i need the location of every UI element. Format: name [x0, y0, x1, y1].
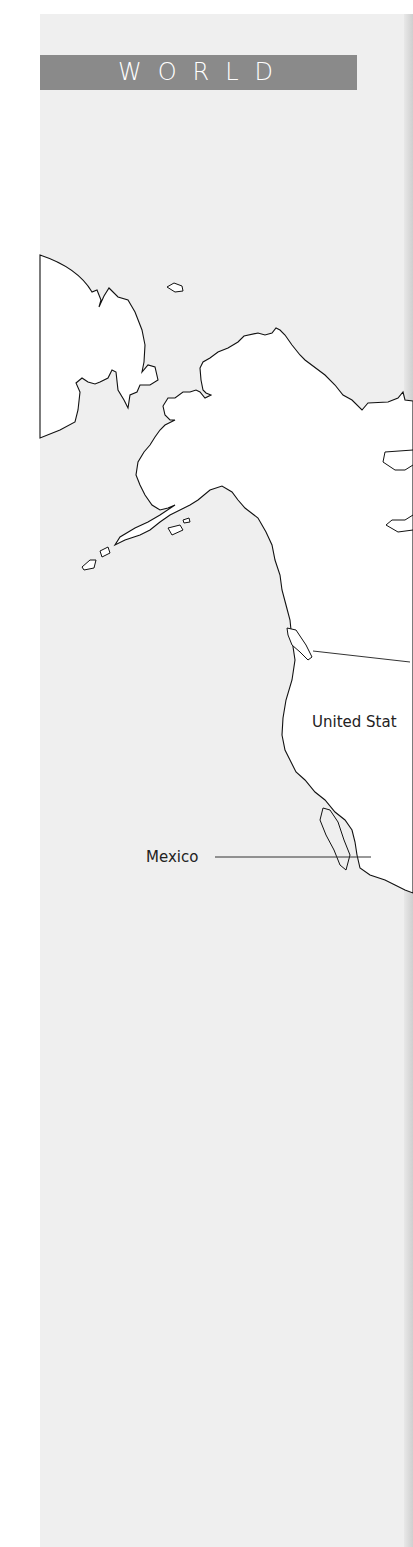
russia-landmass — [40, 255, 158, 438]
island — [167, 283, 183, 292]
aleutian-island — [183, 518, 190, 523]
north-america-landmass — [115, 328, 413, 893]
aleutian-island — [82, 560, 96, 570]
aleutian-island — [100, 547, 110, 557]
label-united-states: United Stat — [312, 713, 397, 731]
label-mexico: Mexico — [146, 848, 198, 866]
world-map — [0, 0, 413, 1547]
aleutian-island — [168, 525, 183, 535]
